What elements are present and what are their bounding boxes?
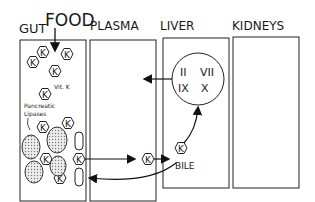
pancreatic-label: Pancreatic: [24, 102, 55, 109]
vitamin-k-diagram: GUT FOOD PLASMA LIVER KIDNEYS K K K K K …: [0, 0, 315, 202]
kidneys-title: KIDNEYS: [232, 19, 284, 33]
plasma-title: PLASMA: [90, 19, 139, 33]
bile-capsule: [75, 132, 83, 150]
clotting-factors-circle: [172, 53, 224, 105]
liver-title: LIVER: [160, 19, 194, 33]
lipase-pointer: [27, 118, 30, 130]
vitk-label: Vit. K: [54, 83, 71, 90]
bile-capsule: [75, 168, 83, 186]
synthesis-arrow: [184, 108, 198, 143]
factor-vii: VII: [200, 66, 214, 79]
bile-label: BILE: [175, 161, 195, 171]
gut-title: GUT: [19, 21, 47, 36]
kidneys-box: [233, 37, 299, 188]
food-title: FOOD: [45, 10, 95, 30]
factor-ix: IX: [178, 82, 189, 95]
lipases-label: Lipases: [24, 110, 46, 118]
factor-ii: II: [180, 66, 187, 79]
factor-x: X: [201, 82, 209, 95]
